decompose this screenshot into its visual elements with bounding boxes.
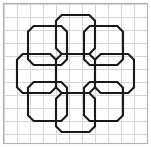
figure-root	[0, 0, 151, 147]
canvas-background	[0, 0, 151, 147]
octagon-rosette-figure	[0, 0, 151, 147]
